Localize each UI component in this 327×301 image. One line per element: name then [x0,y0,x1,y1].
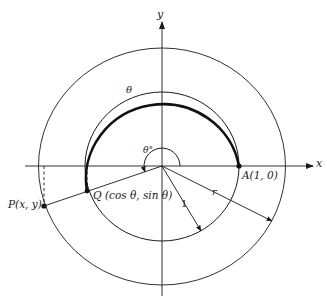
x-axis-label: x [316,158,322,169]
radius-r-label: r [212,187,217,197]
theta-arc-label: θ [126,85,132,95]
unit-circle-diagram [0,0,327,301]
point-A-label: A(1, 0) [242,170,278,181]
y-axis-label: y [157,9,163,20]
theta-degree-label: θ° [143,146,153,155]
point-P-label: P(x, y) [8,199,42,210]
point-Q-label: Q (cos θ, sin θ) [93,190,172,201]
point-Q [85,189,90,194]
radius-1-label: 1 [181,199,187,209]
point-A [236,163,241,168]
point-P [41,203,46,208]
